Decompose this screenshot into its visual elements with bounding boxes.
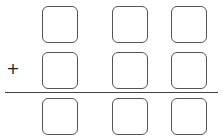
sum-digit-hundreds-box[interactable]: [42, 98, 78, 135]
sum-divider-line: [5, 92, 218, 93]
addend1-digit-hundreds-box[interactable]: [42, 6, 78, 43]
plus-operator-icon: +: [6, 61, 20, 77]
addend2-digit-ones-box[interactable]: [171, 52, 207, 89]
sum-digit-tens-box[interactable]: [112, 98, 148, 135]
addend2-digit-tens-box[interactable]: [112, 52, 148, 89]
addend1-digit-tens-box[interactable]: [112, 6, 148, 43]
addend2-digit-hundreds-box[interactable]: [42, 52, 78, 89]
sum-digit-ones-box[interactable]: [171, 98, 207, 135]
addend1-digit-ones-box[interactable]: [171, 6, 207, 43]
